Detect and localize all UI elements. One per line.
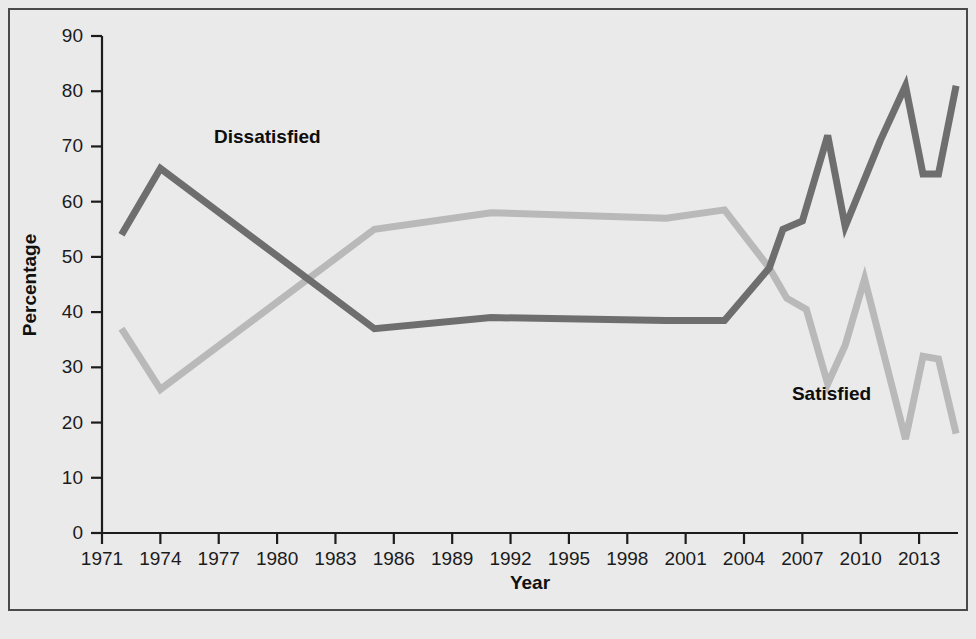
x-tick-label: 2004 <box>723 548 766 569</box>
x-tick-label: 1974 <box>139 548 182 569</box>
chart-axes <box>102 36 958 533</box>
y-tick-label: 70 <box>62 135 83 156</box>
y-tick-label: 0 <box>72 522 83 543</box>
y-tick-label: 40 <box>62 301 83 322</box>
x-tick-label: 1998 <box>606 548 648 569</box>
x-tick-label: 2001 <box>664 548 706 569</box>
y-axis-title: Percentage <box>19 234 40 336</box>
y-tick-label: 20 <box>62 412 83 433</box>
x-tick-label: 2007 <box>781 548 823 569</box>
chart-tick-labels: 0102030405060708090197119741977198019831… <box>62 25 940 569</box>
x-tick-label: 1992 <box>489 548 531 569</box>
x-tick-label: 1971 <box>81 548 123 569</box>
y-tick-label: 80 <box>62 80 83 101</box>
x-tick-label: 1986 <box>373 548 415 569</box>
x-tick-label: 1989 <box>431 548 473 569</box>
x-tick-label: 1983 <box>314 548 356 569</box>
x-tick-label: 2010 <box>840 548 882 569</box>
series-line-satisfied <box>122 210 957 439</box>
y-tick-label: 50 <box>62 246 83 267</box>
x-tick-label: 2013 <box>898 548 940 569</box>
x-tick-label: 1995 <box>548 548 590 569</box>
x-tick-label: 1980 <box>256 548 298 569</box>
y-tick-label: 60 <box>62 191 83 212</box>
x-tick-label: 1977 <box>198 548 240 569</box>
y-tick-label: 10 <box>62 467 83 488</box>
y-tick-label: 90 <box>62 25 83 46</box>
line-chart: 0102030405060708090197119741977198019831… <box>0 0 976 639</box>
series-label-satisfied: Satisfied <box>792 383 871 404</box>
chart-ticks <box>91 36 919 544</box>
series-line-dissatisfied <box>122 86 957 329</box>
x-axis-title: Year <box>510 572 551 593</box>
series-label-dissatisfied: Dissatisfied <box>214 126 321 147</box>
figure-container: 0102030405060708090197119741977198019831… <box>0 0 976 639</box>
y-tick-label: 30 <box>62 356 83 377</box>
